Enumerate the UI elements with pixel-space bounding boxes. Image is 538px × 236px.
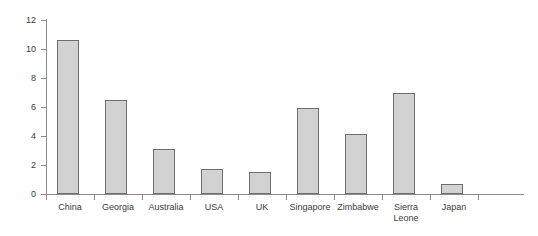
- y-axis-tick: [41, 165, 46, 166]
- bar: [105, 100, 127, 194]
- y-axis-tick-label: 4: [31, 132, 36, 141]
- bar: [393, 93, 415, 194]
- bar: [441, 184, 463, 194]
- y-axis-tick: [41, 20, 46, 21]
- x-axis-category-label: Zimbabwe: [334, 202, 382, 213]
- y-axis-tick-label: 2: [31, 161, 36, 170]
- y-axis-tick: [41, 136, 46, 137]
- y-axis-tick-label: 8: [31, 74, 36, 83]
- x-axis-tick: [94, 195, 95, 200]
- x-axis-category-label: China: [46, 202, 94, 213]
- y-axis-tick: [41, 49, 46, 50]
- x-axis-category-label: Australia: [142, 202, 190, 213]
- x-axis-tick: [142, 195, 143, 200]
- y-axis-tick: [41, 107, 46, 108]
- x-axis-tick: [430, 195, 431, 200]
- x-axis-tick: [286, 195, 287, 200]
- x-axis-line: [46, 194, 524, 195]
- x-axis-tick: [382, 195, 383, 200]
- x-axis-category-label: Georgia: [94, 202, 142, 213]
- y-axis-line: [46, 19, 47, 195]
- x-axis-category-label: UK: [238, 202, 286, 213]
- x-axis-category-label: Japan: [430, 202, 478, 213]
- x-axis-category-label: Sierra Leone: [382, 202, 430, 224]
- x-axis-tick: [334, 195, 335, 200]
- x-axis-tick: [46, 195, 47, 200]
- bar: [201, 169, 223, 194]
- bar: [153, 149, 175, 194]
- x-axis-tick: [190, 195, 191, 200]
- bar-chart: 024681012 ChinaGeorgiaAustraliaUSAUKSing…: [0, 0, 538, 236]
- y-axis-tick-label: 10: [26, 45, 36, 54]
- x-axis-category-label: Singapore: [286, 202, 334, 213]
- bar: [345, 134, 367, 194]
- bar: [297, 108, 319, 194]
- bar: [249, 172, 271, 194]
- y-axis-tick: [41, 78, 46, 79]
- y-axis-tick-label: 6: [31, 103, 36, 112]
- bar: [57, 40, 79, 194]
- x-axis-category-label: USA: [190, 202, 238, 213]
- y-axis-tick-label: 0: [31, 190, 36, 199]
- x-axis-tick: [238, 195, 239, 200]
- x-axis-tick: [478, 195, 479, 200]
- y-axis-tick-label: 12: [26, 16, 36, 25]
